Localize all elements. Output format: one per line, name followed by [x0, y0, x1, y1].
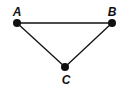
labels: A B C [12, 5, 117, 87]
vertices [13, 19, 116, 71]
vertex-b-label: B [108, 5, 117, 19]
vertex-c-dot [61, 63, 69, 71]
triangle-diagram: A B C [0, 0, 124, 88]
vertex-b-dot [108, 19, 116, 27]
vertex-c-label: C [62, 73, 71, 87]
vertex-a-label: A [12, 5, 22, 19]
edges [17, 23, 112, 67]
edge-a-c [17, 23, 65, 67]
vertex-a-dot [13, 19, 21, 27]
edge-b-c [65, 23, 112, 67]
